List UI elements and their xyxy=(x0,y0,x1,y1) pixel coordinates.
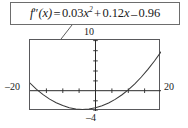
x-axis-ticks xyxy=(46,88,144,93)
formula-term3-constant: 0.96 xyxy=(139,7,160,21)
figure-container: f″(x)=0.03x2+0.12x–0.96 xyxy=(0,0,188,128)
formula-argument: (x) xyxy=(38,7,52,21)
axes-group xyxy=(30,40,161,111)
y-axis-max-label: 10 xyxy=(84,26,94,37)
plot-svg xyxy=(30,40,161,111)
formula-term2-coefficient: 0.12 xyxy=(102,7,123,21)
formula-callout-box: f″(x)=0.03x2+0.12x–0.96 xyxy=(10,2,180,25)
formula-plus-sign: + xyxy=(93,7,103,21)
y-axis-ticks xyxy=(93,41,98,111)
formula-minus-sign: – xyxy=(129,7,138,21)
formula-term1-exponent: 2 xyxy=(89,5,93,14)
formula-term1-coefficient: 0.03 xyxy=(62,7,83,21)
x-axis-max-label: 20 xyxy=(164,81,174,92)
formula-equals-sign: = xyxy=(52,7,62,21)
y-axis-min-label: –4 xyxy=(86,112,96,123)
parabola-curve xyxy=(30,52,161,110)
plot-frame xyxy=(29,39,160,110)
formula-text: f″(x)=0.03x2+0.12x–0.96 xyxy=(30,5,160,21)
x-axis-min-label: –20 xyxy=(5,81,20,92)
